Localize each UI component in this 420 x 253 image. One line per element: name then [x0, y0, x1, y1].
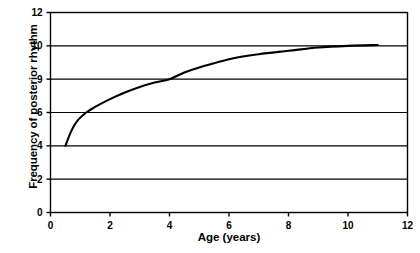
- y-tick-labels: 024691012: [31, 7, 43, 218]
- y-tick-label: 0: [37, 207, 43, 218]
- x-tick-label: 10: [342, 220, 354, 231]
- x-tick-label: 0: [48, 220, 54, 231]
- x-tick-label: 6: [226, 220, 232, 231]
- y-tick-label: 9: [37, 74, 43, 85]
- y-tick-label: 6: [37, 107, 43, 118]
- x-tick-label: 2: [107, 220, 113, 231]
- plot-area: 024681012 024691012: [0, 0, 420, 253]
- x-tick-label: 12: [402, 220, 414, 231]
- y-tick-label: 10: [31, 40, 43, 51]
- x-tick-label: 4: [167, 220, 173, 231]
- y-tick-label: 2: [37, 174, 43, 185]
- gridlines: [51, 46, 408, 179]
- y-tick-label: 12: [31, 7, 43, 18]
- data-line-posterior-rhythm: [65, 45, 377, 146]
- y-tick-label: 4: [37, 140, 43, 151]
- chart-figure: Frequency of posterior rhythm Age (years…: [0, 0, 420, 253]
- x-tick-labels: 024681012: [48, 220, 414, 231]
- x-tick-label: 8: [286, 220, 292, 231]
